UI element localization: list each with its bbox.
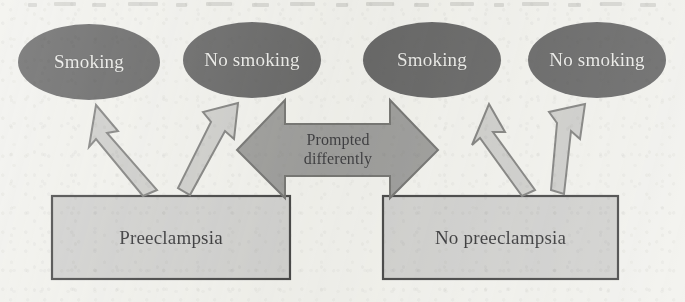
- connector-prompted-differently[interactable]: [237, 100, 438, 198]
- box-preeclampsia[interactable]: [52, 196, 290, 279]
- arrow-preeclampsia-to-no-smoking: [178, 103, 238, 195]
- diagram-vector-layer: [0, 0, 685, 302]
- arrow-no-preeclampsia-to-smoking: [472, 104, 535, 196]
- ellipse-smoking-right[interactable]: [363, 22, 501, 98]
- diagram-canvas: Smoking No smoking Smoking No smoking Pr…: [0, 0, 685, 302]
- ellipse-smoking-left[interactable]: [18, 24, 160, 100]
- ellipse-no-smoking-left[interactable]: [183, 22, 321, 98]
- ellipse-no-smoking-right[interactable]: [528, 22, 666, 98]
- box-no-preeclampsia[interactable]: [383, 196, 618, 279]
- arrow-preeclampsia-to-smoking: [89, 105, 157, 196]
- arrow-no-preeclampsia-to-no-smoking: [549, 104, 585, 194]
